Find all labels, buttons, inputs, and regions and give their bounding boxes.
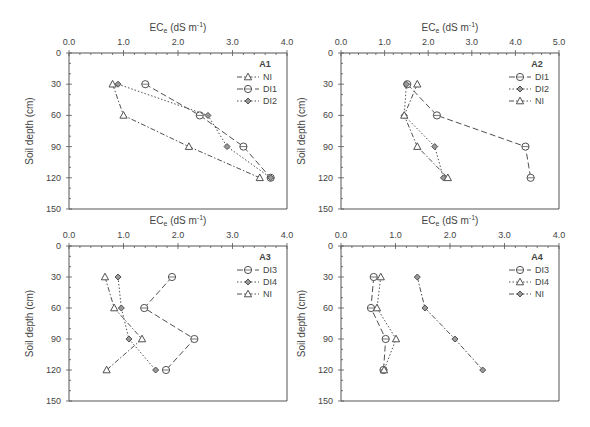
- y-tick-label: 150: [46, 204, 61, 214]
- ni-marker: [120, 112, 127, 119]
- series-di1: [404, 81, 535, 182]
- x-tick-label: 0.0: [335, 230, 348, 240]
- ni-marker: [101, 273, 108, 280]
- y-tick-label: 0: [56, 241, 61, 251]
- legend-label: DI4: [535, 277, 549, 287]
- legend-label: NI: [535, 289, 544, 299]
- ni-marker: [256, 174, 263, 181]
- y-tick-label: 0: [56, 48, 61, 58]
- figure: 0.01.02.03.04.00306090120150ECe (dS m-1)…: [0, 0, 590, 427]
- y-tick-label: 150: [318, 396, 333, 406]
- y-tick-label: 60: [51, 110, 61, 120]
- y-tick-label: 120: [318, 365, 333, 375]
- legend-label: NI: [263, 289, 272, 299]
- ni-marker: [414, 143, 421, 150]
- x-axis-title: ECe (dS m-1): [422, 21, 479, 34]
- series-ni: [414, 274, 485, 373]
- panel-label: A2: [531, 59, 543, 69]
- x-tick-label: 0.0: [63, 37, 76, 47]
- y-tick-label: 60: [323, 110, 333, 120]
- ni-marker: [185, 143, 192, 150]
- x-tick-label: 2.0: [172, 37, 185, 47]
- x-tick-label: 1.0: [117, 37, 130, 47]
- legend-ni-marker: [517, 291, 523, 297]
- x-tick-label: 3.0: [226, 230, 239, 240]
- series-di4: [373, 273, 399, 373]
- legend-label: NI: [535, 96, 544, 106]
- legend-label: DI4: [263, 277, 277, 287]
- y-tick-label: 120: [318, 173, 333, 183]
- x-tick-label: 0.0: [335, 37, 348, 47]
- legend-label: DI1: [535, 72, 549, 82]
- legend-di2-marker: [245, 98, 251, 104]
- y-tick-label: 150: [318, 204, 333, 214]
- x-tick-label: 3.0: [226, 37, 239, 47]
- x-tick-label: 1.0: [389, 230, 402, 240]
- y-tick-label: 30: [51, 79, 61, 89]
- di4-marker: [377, 273, 384, 280]
- ni-marker: [414, 274, 420, 280]
- y-axis-title: Soil depth (cm): [24, 290, 35, 357]
- x-tick-label: 4.0: [281, 37, 294, 47]
- x-tick-label: 1.0: [378, 37, 391, 47]
- panel-a4: 0.01.02.03.04.00306090120150ECe (dS m-1)…: [296, 214, 565, 406]
- series-ni: [101, 273, 145, 373]
- y-tick-label: 120: [46, 365, 61, 375]
- x-tick-label: 2.0: [172, 230, 185, 240]
- legend: A3DI3DI4NI: [237, 252, 277, 299]
- x-axis-title: ECe (dS m-1): [422, 214, 479, 227]
- legend-label: DI2: [263, 96, 277, 106]
- di2-marker: [205, 112, 211, 118]
- panel-label: A4: [531, 252, 543, 262]
- panel-label: A1: [259, 59, 271, 69]
- y-tick-label: 150: [46, 396, 61, 406]
- y-axis-title: Soil depth (cm): [24, 97, 35, 164]
- legend-label: DI2: [535, 84, 549, 94]
- x-tick-label: 2.0: [444, 230, 457, 240]
- panel-a3: 0.01.02.03.04.00306090120150ECe (dS m-1)…: [24, 214, 293, 406]
- legend: A4DI3DI4NI: [509, 252, 549, 299]
- ni-marker: [480, 367, 486, 373]
- di4-marker: [118, 305, 124, 311]
- panel-label: A3: [259, 252, 271, 262]
- y-tick-label: 30: [323, 79, 333, 89]
- legend-label: DI1: [263, 84, 277, 94]
- di4-marker: [153, 367, 159, 373]
- y-tick-label: 0: [328, 48, 333, 58]
- panel-a2: 0.01.02.03.04.05.00306090120150ECe (dS m…: [296, 21, 565, 214]
- panel-a1: 0.01.02.03.04.00306090120150ECe (dS m-1)…: [24, 21, 293, 214]
- series-ni: [401, 80, 452, 180]
- y-tick-label: 60: [51, 303, 61, 313]
- y-tick-label: 90: [323, 334, 333, 344]
- x-tick-label: 4.0: [553, 230, 566, 240]
- y-tick-label: 60: [323, 303, 333, 313]
- y-tick-label: 90: [51, 142, 61, 152]
- x-tick-label: 5.0: [553, 37, 566, 47]
- y-tick-label: 90: [51, 334, 61, 344]
- y-tick-label: 120: [46, 173, 61, 183]
- x-tick-label: 4.0: [509, 37, 522, 47]
- legend-label: DI3: [263, 265, 277, 275]
- y-axis-title: Soil depth (cm): [296, 290, 307, 357]
- di2-marker: [432, 144, 438, 150]
- series-di2: [115, 81, 274, 181]
- x-axis-title: ECe (dS m-1): [150, 21, 207, 34]
- y-tick-label: 90: [323, 142, 333, 152]
- ni-marker: [111, 304, 118, 311]
- y-tick-label: 30: [51, 272, 61, 282]
- y-tick-label: 30: [323, 272, 333, 282]
- y-axis-title: Soil depth (cm): [296, 97, 307, 164]
- series-di3: [141, 273, 198, 373]
- legend: A2DI1DI2NI: [509, 59, 549, 106]
- legend-di2-marker: [517, 86, 523, 92]
- series-ni: [109, 80, 263, 180]
- x-tick-label: 0.0: [63, 230, 76, 240]
- legend-label: DI3: [535, 265, 549, 275]
- legend-label: NI: [263, 72, 272, 82]
- di4-marker: [115, 274, 121, 280]
- legend: A1NIDI1DI2: [237, 59, 277, 106]
- x-tick-label: 3.0: [498, 230, 511, 240]
- di4-marker: [126, 336, 132, 342]
- series-di2: [401, 81, 446, 181]
- x-tick-label: 3.0: [466, 37, 479, 47]
